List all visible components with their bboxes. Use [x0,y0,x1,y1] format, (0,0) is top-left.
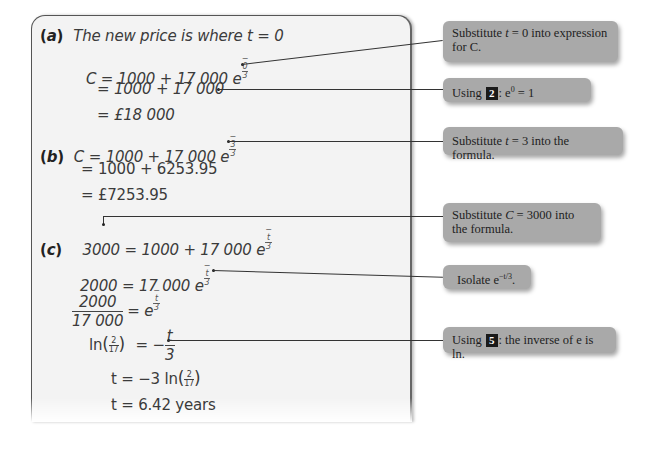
exponent-fraction: −t3 [204,262,211,287]
fraction-2-over-17: 217 [109,337,119,354]
exponent-fraction: −t3 [265,226,272,251]
part-a-intro-line: (a)The new price is where t = 0 [40,27,284,45]
part-c-step6: t = 6.42 years [111,396,216,414]
exponent-fraction: −33 [229,133,236,158]
callout-using-2: Using 2: e0 = 1 [443,78,591,102]
fraction-2000-over-17000: 200017 000 [72,293,123,330]
part-c-step1: (c) 3000 = 1000 + 17 000 e−t3 [40,226,272,259]
callout-substitute-t0: Substitute t = 0 into expression for C. [443,21,618,62]
callout-substitute-t3: Substitute t = 3 into the formula. [443,127,623,155]
reference-badge-5: 5 [486,334,498,347]
exponent-fraction: −03 [242,55,249,80]
callout-using-5: Using 5: the inverse of e is ln. [443,327,616,353]
part-c-step5: t = −3 ln(217) [111,368,200,388]
connector-line-c2 [218,89,443,90]
part-a-label: (a) [40,27,63,45]
fraction-2-over-17: 217 [184,371,194,388]
part-b-step3: = £7253.95 [81,186,168,204]
reference-badge-2: 2 [486,87,498,100]
callout-isolate: Isolate e−t/3. [443,265,531,289]
callout-substitute-c3000: Substitute C = 3000 into the formula. [443,203,601,242]
part-b-label: (b) [40,148,64,166]
part-c-label: (c) [40,241,62,259]
part-c-step4: ln(217) = −t3 [89,327,179,364]
part-a-intro: The new price is where t = 0 [73,27,283,45]
fraction-t-over-3: t3 [165,327,175,364]
part-c-step3: 200017 000= e−t3 [72,287,160,330]
exponent-fraction: −t3 [153,287,160,312]
connector-dot [102,223,105,226]
connector-line-c3 [228,141,443,142]
connector-line-c4 [103,216,443,217]
part-a-step3: = £18 000 [97,106,175,124]
part-a-step2: = 1000 + 17 000 [97,80,224,98]
connector-line-c6 [168,340,443,341]
part-b-step2: = 1000 + 6253.95 [81,160,217,178]
